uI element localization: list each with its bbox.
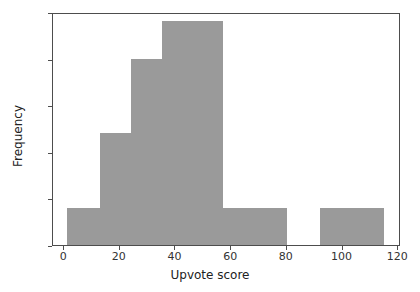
histogram-figure: Frequency 0510152025 020406080100120 Upv…: [0, 0, 420, 292]
histogram-bar: [162, 21, 223, 245]
x-tick-label: 80: [279, 250, 293, 263]
y-tick-mark: [48, 106, 52, 107]
x-tick-label: 60: [223, 250, 237, 263]
x-tick-label: 0: [60, 250, 67, 263]
x-tick-label: 20: [112, 250, 126, 263]
y-axis-label: Frequency: [11, 76, 25, 196]
x-tick-label: 100: [331, 250, 352, 263]
y-tick-mark: [48, 246, 52, 247]
histogram-bar: [320, 208, 384, 245]
x-axis-label: Upvote score: [0, 268, 420, 282]
x-tick-label: 120: [387, 250, 408, 263]
histogram-bar: [223, 208, 287, 245]
plot-area: [52, 13, 400, 246]
y-tick-mark: [48, 60, 52, 61]
histogram-bar: [67, 208, 100, 245]
x-tick-label: 40: [167, 250, 181, 263]
histogram-bar: [131, 59, 162, 245]
y-tick-mark: [48, 153, 52, 154]
y-tick-mark: [48, 199, 52, 200]
y-tick-mark: [48, 13, 52, 14]
histogram-bar: [100, 133, 131, 245]
bars-layer: [53, 14, 399, 245]
